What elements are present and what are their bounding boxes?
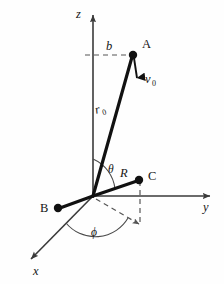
v0-label-group: v 0 — [145, 72, 156, 88]
projection-dashed-line — [96, 199, 139, 224]
point-dots-group — [54, 51, 143, 212]
axes-group — [31, 15, 210, 259]
point-B-dot — [54, 204, 62, 212]
vectors-group — [60, 57, 137, 208]
labels-group: z y x A B C b r 0 v 0 R θ — [32, 7, 209, 278]
r0-subscript: 0 — [101, 107, 107, 117]
diagram-canvas: z y x A B C b r 0 v 0 R θ — [0, 0, 224, 284]
v0-vector-line — [134, 58, 137, 78]
point-C-dot — [135, 176, 143, 184]
phi-arc — [66, 218, 128, 237]
v0-label: v — [145, 72, 151, 86]
theta-label: θ — [108, 163, 114, 175]
R-vector-line — [93, 181, 137, 196]
point-B-label: B — [40, 201, 48, 215]
point-C-label: C — [148, 169, 156, 183]
r0-label: r — [93, 102, 101, 117]
R-label: R — [119, 166, 128, 180]
point-A-dot — [129, 51, 137, 59]
x-axis-label: x — [32, 264, 39, 278]
phi-label: ϕ — [91, 226, 97, 239]
point-A-label: A — [142, 37, 151, 51]
y-axis-label: y — [201, 200, 209, 214]
impact-parameter-label: b — [106, 39, 112, 53]
r0-label-group: r 0 — [93, 101, 107, 119]
angle-arcs-group — [66, 159, 128, 237]
v0-subscript: 0 — [152, 79, 156, 88]
z-axis-label: z — [75, 7, 81, 21]
vector-diagram-figure: z y x A B C b r 0 v 0 R θ — [0, 0, 224, 284]
